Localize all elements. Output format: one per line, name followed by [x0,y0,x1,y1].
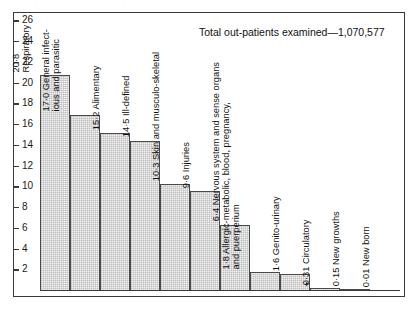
y-tick-label: 22 [22,56,33,67]
y-tick-label: 2 [22,263,28,274]
bar-slot[interactable]: 6·4 Nervous system and sense organs [220,13,250,291]
bar-slot[interactable]: 15·2 Alimentary [100,13,130,291]
bar-slot[interactable]: 0·01 New born [370,13,400,291]
bar-slot[interactable]: 20·8Respiratory [40,13,70,291]
bar-slot[interactable]: 0·31 Circulatory [310,13,340,291]
y-tick-mark [14,145,19,146]
bar-slot[interactable]: 14·5 Ill-defined [130,13,160,291]
y-tick-mark [14,83,19,84]
bar[interactable] [130,141,160,291]
y-tick-label: 6 [22,222,28,233]
bar[interactable] [100,133,130,291]
bar[interactable] [190,191,220,291]
y-tick-label: 16 [22,118,33,129]
bar[interactable] [160,184,190,291]
bar-slot[interactable]: 10·3 Skin and musculo-skeletal [160,13,190,291]
y-tick-label: 10 [22,180,33,191]
bar-slot[interactable]: 17·0 General infect-ious and parasitic [70,13,100,291]
y-tick-label: 12 [22,160,33,171]
bar-slot[interactable]: 0·15 New growths [340,13,370,291]
y-tick-mark [14,103,19,104]
y-tick-mark [14,207,19,208]
bar[interactable] [220,225,250,291]
y-tick-mark [14,186,19,187]
bar-slot[interactable]: 9·6 Injuries [190,13,220,291]
y-tick-label: 26 [22,14,33,25]
circulatory-pointer-icon [306,282,309,286]
y-tick-mark [14,20,19,21]
y-tick-mark [14,249,19,250]
y-tick-label: 24 [22,35,33,46]
y-tick-label: 4 [22,243,28,254]
y-tick-mark [14,62,19,63]
y-tick-mark [14,228,19,229]
y-tick-label: 20 [22,77,33,88]
y-tick-mark [14,166,19,167]
scan-bleed-artifact: · · · · · · · · · [0,0,417,11]
bar-slot[interactable]: 1·8 Allergic-metabolic, blood, pregnancy… [250,13,280,291]
y-tick-label: 14 [22,139,33,150]
y-tick-label: 18 [22,97,33,108]
bar[interactable] [70,115,100,291]
x-axis-baseline [40,290,400,291]
bar[interactable] [40,75,70,291]
y-tick-mark [14,124,19,125]
chart-frame: Total out-patients examined—1,070,577 24… [13,12,405,297]
y-tick-mark [14,269,19,270]
bar[interactable] [250,272,280,291]
plot-area: 20·8Respiratory17·0 General infect-ious … [40,13,400,291]
y-tick-mark [14,41,19,42]
y-tick-label: 8 [22,201,28,212]
bar-slot[interactable]: 1·6 Genito-urinary [280,13,310,291]
bar-group: 20·8Respiratory17·0 General infect-ious … [40,13,400,291]
